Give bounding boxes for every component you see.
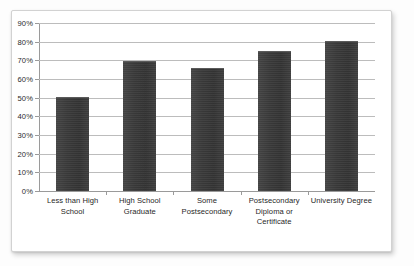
y-axis-tick-label: 0% bbox=[22, 187, 33, 196]
gridline-0 bbox=[39, 191, 375, 192]
gridline-90 bbox=[39, 23, 375, 24]
y-tick-mark bbox=[35, 116, 39, 117]
x-tick-mark bbox=[173, 191, 174, 195]
bar bbox=[325, 41, 358, 191]
plot-area: 0%10%20%30%40%50%60%70%80%90% bbox=[39, 23, 375, 191]
bar bbox=[258, 51, 291, 191]
y-tick-mark bbox=[35, 23, 39, 24]
x-axis-category-label: University Degree bbox=[308, 196, 375, 207]
y-axis-tick-label: 60% bbox=[18, 75, 34, 84]
y-axis-tick-label: 80% bbox=[18, 37, 34, 46]
y-tick-mark bbox=[35, 135, 39, 136]
x-axis-category-label: Some Postsecondary bbox=[173, 196, 240, 217]
x-axis-category-label: Less than High School bbox=[39, 196, 106, 217]
chart-card: 0%10%20%30%40%50%60%70%80%90% Less than … bbox=[11, 10, 392, 252]
y-tick-mark bbox=[35, 79, 39, 80]
y-axis-tick-label: 50% bbox=[18, 93, 34, 102]
y-axis-tick-label: 10% bbox=[18, 168, 34, 177]
y-axis-tick-label: 70% bbox=[18, 56, 34, 65]
y-tick-mark bbox=[35, 42, 39, 43]
y-axis-tick-label: 40% bbox=[18, 112, 34, 121]
y-axis-tick-label: 20% bbox=[18, 149, 34, 158]
x-tick-mark bbox=[106, 191, 107, 195]
page-root: 0%10%20%30%40%50%60%70%80%90% Less than … bbox=[0, 0, 414, 266]
y-axis-line bbox=[39, 23, 40, 191]
x-tick-mark bbox=[241, 191, 242, 195]
y-axis-tick-label: 30% bbox=[18, 131, 34, 140]
y-axis-tick-label: 90% bbox=[18, 19, 34, 28]
x-axis-category-label: High School Graduate bbox=[106, 196, 173, 217]
bar bbox=[56, 97, 89, 191]
y-tick-mark bbox=[35, 98, 39, 99]
y-tick-mark bbox=[35, 60, 39, 61]
x-tick-mark bbox=[308, 191, 309, 195]
x-axis-category-label: Postsecondary Diploma or Certificate bbox=[241, 196, 308, 228]
bar bbox=[191, 68, 224, 191]
y-tick-mark bbox=[35, 191, 39, 192]
bar bbox=[123, 61, 156, 191]
y-tick-mark bbox=[35, 172, 39, 173]
y-tick-mark bbox=[35, 154, 39, 155]
